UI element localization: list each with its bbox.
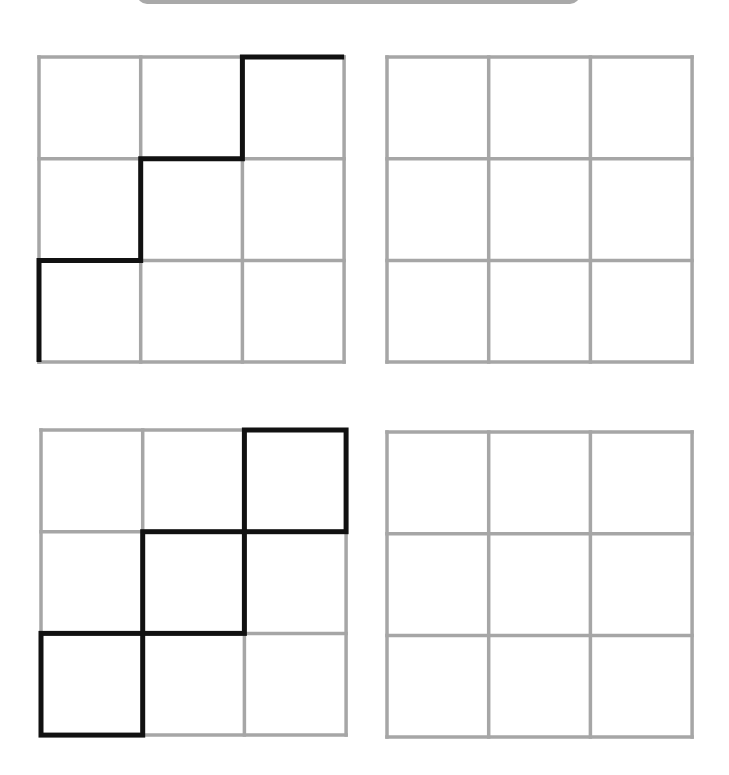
highlighted-cell	[41, 633, 143, 735]
top-banner-bar	[137, 0, 580, 4]
grid-panel-bottom-right	[385, 430, 694, 739]
grid-3x3	[385, 55, 694, 364]
grid-3x3	[37, 55, 346, 364]
grid-3x3	[39, 428, 348, 737]
grid-panel-top-right	[385, 55, 694, 364]
staircase-path	[39, 57, 344, 362]
highlighted-cell	[143, 532, 245, 634]
grid-panel-bottom-left	[39, 428, 348, 737]
grid-3x3	[385, 430, 694, 739]
highlighted-cell	[244, 430, 346, 532]
grid-panel-top-left	[37, 55, 346, 364]
